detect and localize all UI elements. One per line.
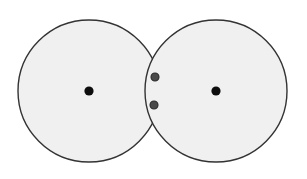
two-circles-diagram [0,0,307,179]
left-center-point [84,86,93,95]
lens-point-upper [151,73,159,81]
right-center-point [211,86,220,95]
lens-point-lower [150,101,158,109]
diagram-canvas [0,0,307,179]
